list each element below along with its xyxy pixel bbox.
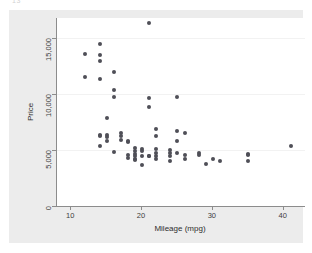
data-point [218, 159, 222, 163]
x-axis-tick [212, 206, 213, 210]
data-point [289, 144, 293, 148]
gridline [57, 38, 305, 39]
chart-screenshot: 13 05,00010,00015,000 10203040 Price Mil… [0, 0, 312, 253]
data-point [175, 129, 179, 133]
data-point [175, 95, 179, 99]
data-point [154, 134, 158, 138]
x-axis-tick-label: 30 [208, 211, 216, 220]
x-axis-tick [70, 206, 71, 210]
x-axis-tick [141, 206, 142, 210]
data-point [154, 127, 158, 131]
data-point [140, 163, 144, 167]
y-axis-tick [52, 94, 56, 95]
data-point [119, 138, 123, 142]
y-axis-tick-label: 15,000 [44, 38, 53, 61]
data-point [147, 105, 151, 109]
y-axis-title: Price [26, 103, 35, 121]
y-axis-tick-label: 10,000 [44, 94, 53, 117]
data-point [98, 42, 102, 46]
graph-region: 05,00010,00015,000 10203040 Price Mileag… [9, 10, 303, 243]
data-point [204, 162, 208, 166]
x-axis-tick [283, 206, 284, 210]
data-point [168, 159, 172, 163]
data-point [126, 139, 130, 143]
data-point [112, 150, 116, 154]
data-point [119, 134, 123, 138]
data-point [211, 157, 215, 161]
data-point [83, 75, 87, 79]
data-point [197, 153, 201, 157]
data-point [147, 21, 151, 25]
data-point [140, 154, 144, 158]
data-point [98, 144, 102, 148]
cropped-caption-fragment: 13 [12, 0, 21, 5]
data-point [98, 59, 102, 63]
data-point [246, 153, 250, 157]
gridline [57, 150, 305, 151]
data-point [175, 139, 179, 143]
data-point [183, 153, 187, 157]
data-point [183, 131, 187, 135]
data-point [133, 158, 137, 162]
data-point [126, 156, 130, 160]
y-axis-tick [52, 150, 56, 151]
plot-area [57, 18, 305, 206]
data-point [105, 116, 109, 120]
plot-panel [56, 18, 305, 207]
data-point [112, 95, 116, 99]
y-axis-tick-label: 0 [44, 206, 53, 210]
data-point [98, 53, 102, 57]
y-axis-tick-label: 5,000 [44, 150, 53, 169]
data-point [154, 157, 158, 161]
data-point [175, 151, 179, 155]
data-point [147, 96, 151, 100]
data-point [147, 154, 151, 158]
x-axis-tick-label: 40 [279, 211, 287, 220]
data-point [112, 88, 116, 92]
data-point [98, 134, 102, 138]
data-point [246, 159, 250, 163]
data-point [112, 70, 116, 74]
data-point [105, 139, 109, 143]
y-axis-tick [52, 206, 56, 207]
x-axis-tick-label: 20 [137, 211, 145, 220]
x-axis-title: Mileage (mpg) [154, 224, 205, 233]
y-axis-tick [52, 38, 56, 39]
x-axis-tick-label: 10 [66, 211, 74, 220]
data-point [168, 154, 172, 158]
data-point [183, 157, 187, 161]
data-point [83, 52, 87, 56]
data-point [140, 149, 144, 153]
data-point [98, 77, 102, 81]
gridline [57, 94, 305, 95]
